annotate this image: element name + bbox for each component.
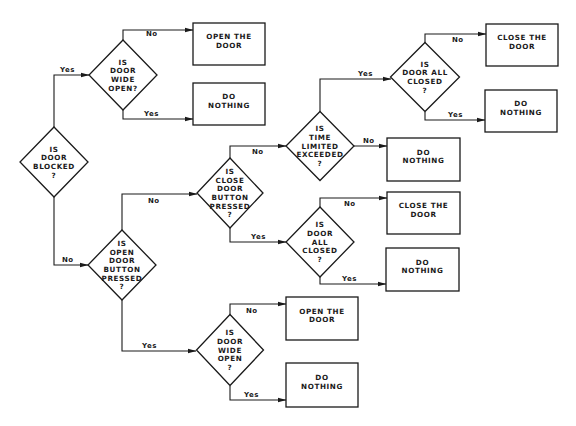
decision-node-d-close-button: ISCLOSEDOORBUTTONPRESSED? xyxy=(197,158,263,228)
edge-no-connector: No xyxy=(425,34,486,44)
edge-label: No xyxy=(146,30,158,38)
node-text-line: DOOR xyxy=(309,315,335,324)
edge-label: Yes xyxy=(357,70,373,78)
node-text-line: ? xyxy=(228,210,233,219)
decision-node-d-wide-open-1: ISDOORWIDEOPEN? xyxy=(89,40,157,110)
node-text-line: DOOR xyxy=(410,210,436,219)
node-text-line: ? xyxy=(228,363,233,372)
edge-yes-connector: Yes xyxy=(122,300,196,351)
edge-label: No xyxy=(363,137,375,145)
node-text-line: ? xyxy=(318,159,323,168)
edge-yes-connector: Yes xyxy=(230,386,286,400)
edge-no-connector: No xyxy=(230,146,286,158)
arrow-icon xyxy=(122,300,196,351)
edge-label: No xyxy=(452,36,464,44)
action-node-b-open-door-2: OPEN THEDOOR xyxy=(286,297,358,340)
arrow-icon xyxy=(54,75,89,127)
decision-node-d-all-closed-1: ISDOOR ALLCLOSED? xyxy=(391,43,460,112)
edge-label: Yes xyxy=(143,110,159,118)
edge-label: No xyxy=(252,148,264,156)
node-text-line: NOTHING xyxy=(208,101,250,110)
edge-label: Yes xyxy=(243,391,259,399)
edge-yes-connector: Yes xyxy=(320,275,386,284)
action-node-b-do-nothing-1: DONOTHING xyxy=(193,83,265,125)
node-text-line: ? xyxy=(52,171,57,180)
edge-label: Yes xyxy=(341,275,357,283)
edge-label: Yes xyxy=(250,233,266,241)
action-node-b-close-door-1: CLOSE THEDOOR xyxy=(486,24,558,66)
edge-label: Yes xyxy=(59,66,75,74)
edge-no-connector: No xyxy=(122,194,197,230)
flowchart-canvas: YesNoNoYesNoYesNoYesYesNoNoYesNoYesNoYes… xyxy=(0,0,576,426)
node-text-line: DOOR xyxy=(216,41,242,50)
edge-yes-connector: Yes xyxy=(425,111,485,120)
edge-yes-connector: Yes xyxy=(54,66,89,127)
edge-label: Yes xyxy=(447,111,463,119)
node-text-line: NOTHING xyxy=(403,156,445,165)
node-text-line: NOTHING xyxy=(402,266,444,275)
node-text-line: OPEN? xyxy=(108,84,137,93)
node-text-line: ? xyxy=(120,282,125,291)
action-node-b-do-nothing-5: DONOTHING xyxy=(286,363,358,407)
node-text-line: ? xyxy=(318,255,323,264)
edge-label: No xyxy=(344,200,356,208)
action-node-b-open-door-1: OPEN THEDOOR xyxy=(193,23,265,65)
node-text-line: ? xyxy=(423,86,428,95)
action-node-b-do-nothing-4: DONOTHING xyxy=(386,248,459,291)
edge-label: No xyxy=(62,256,74,264)
edge-label: No xyxy=(246,307,258,315)
action-node-b-do-nothing-3: DONOTHING xyxy=(387,138,460,181)
arrow-icon xyxy=(54,197,88,265)
decision-node-d-time-limit: ISTIMELIMITEDEXCEEDED? xyxy=(286,112,354,181)
edge-yes-connector: Yes xyxy=(123,110,193,119)
edge-label: No xyxy=(148,197,160,205)
action-node-b-close-door-2: CLOSE THEDOOR xyxy=(387,192,460,234)
arrow-icon xyxy=(123,30,193,40)
edge-label: Yes xyxy=(141,342,157,350)
node-text-line: DOOR xyxy=(509,42,535,51)
decision-node-d-blocked: ISDOORBLOCKED? xyxy=(20,127,88,197)
action-node-b-do-nothing-2: DONOTHING xyxy=(485,90,557,132)
arrow-icon xyxy=(230,304,286,315)
edge-yes-connector: Yes xyxy=(320,70,391,112)
edge-no-connector: No xyxy=(354,137,387,146)
node-text-line: NOTHING xyxy=(301,382,343,391)
edge-no-connector: No xyxy=(320,198,387,208)
edge-no-connector: No xyxy=(54,197,88,265)
decision-node-d-all-closed-2: ISDOORALLCLOSED? xyxy=(286,207,354,277)
decision-node-d-wide-open-2: ISDOORWIDEOPEN? xyxy=(197,315,264,386)
nodes-layer: ISDOORBLOCKED?ISDOORWIDEOPEN?OPEN THEDOO… xyxy=(20,23,558,407)
decision-node-d-open-button: ISOPENDOORBUTTONPRESSED? xyxy=(88,230,156,300)
edge-yes-connector: Yes xyxy=(230,228,286,242)
edge-no-connector: No xyxy=(123,30,193,40)
node-text-line: NOTHING xyxy=(500,108,542,117)
arrow-icon xyxy=(320,79,391,112)
edge-no-connector: No xyxy=(230,304,286,315)
